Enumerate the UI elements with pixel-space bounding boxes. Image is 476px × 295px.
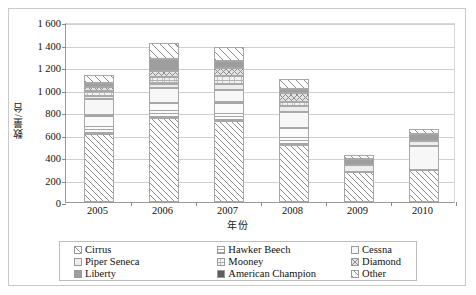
- chart-legend: CirrusHawker BeechCessnaPiper SenecaMoon…: [59, 241, 417, 281]
- y-axis-tick-label: 400: [45, 153, 61, 164]
- bar-group: [344, 22, 374, 202]
- stacked-bar[interactable]: [149, 22, 179, 202]
- stacked-bar[interactable]: [409, 22, 439, 202]
- legend-item-cessna[interactable]: Cessna: [351, 244, 416, 256]
- bar-segment[interactable]: [84, 87, 114, 90]
- bar-segment[interactable]: [214, 90, 244, 102]
- legend-row: Piper SenecaMooneyDiamond: [60, 256, 416, 268]
- bar-segment[interactable]: [344, 172, 374, 202]
- bar-segment[interactable]: [409, 170, 439, 202]
- bar-segment[interactable]: [279, 102, 309, 107]
- x-axis-tick-label: 2008: [282, 205, 303, 216]
- legend-swatch-icon: [217, 270, 225, 278]
- bar-segment[interactable]: [149, 84, 179, 89]
- x-axis-tick-label: 2005: [87, 205, 108, 216]
- y-axis-tick-label: 1 600: [37, 18, 61, 29]
- legend-label: Piper Seneca: [85, 256, 140, 268]
- legend-swatch-icon: [217, 246, 225, 254]
- legend-label: Cirrus: [85, 244, 111, 256]
- legend-label: Mooney: [228, 256, 263, 268]
- y-axis-tick-label: 800: [45, 108, 61, 119]
- bar-segment[interactable]: [279, 79, 309, 89]
- chart-frame: 数量/台 1 6001 4001 2001 0008006004002000 2…: [8, 8, 466, 286]
- bar-segment[interactable]: [409, 129, 439, 134]
- legend-swatch-icon: [74, 258, 82, 266]
- legend-item-other[interactable]: Other: [351, 268, 416, 280]
- legend-swatch-icon: [74, 270, 82, 278]
- bar-segment[interactable]: [214, 121, 244, 202]
- bar-group: [279, 22, 309, 202]
- x-axis-tick-label: 2009: [347, 205, 368, 216]
- plot-area: [65, 23, 455, 203]
- stacked-bar[interactable]: [84, 22, 114, 202]
- bar-segment[interactable]: [409, 134, 439, 141]
- bar-group: [84, 22, 114, 202]
- bar-segment[interactable]: [279, 112, 309, 128]
- legend-row: LibertyAmerican ChampionOther: [60, 268, 416, 280]
- bar-group: [409, 22, 439, 202]
- x-axis-tick-label: 2010: [412, 205, 433, 216]
- bar-segment[interactable]: [279, 128, 309, 144]
- legend-item-liberty[interactable]: Liberty: [60, 268, 217, 280]
- legend-label: Hawker Beech: [228, 244, 290, 256]
- plot-wrapper: 数量/台 1 6001 4001 2001 0008006004002000 2…: [9, 9, 467, 231]
- bar-segment[interactable]: [149, 103, 179, 118]
- legend-item-piper-seneca[interactable]: Piper Seneca: [60, 256, 217, 268]
- legend-item-hawker-beech[interactable]: Hawker Beech: [217, 244, 351, 256]
- bar-segment[interactable]: [409, 141, 439, 147]
- bar-segment[interactable]: [84, 83, 114, 88]
- bar-segment[interactable]: [214, 47, 244, 62]
- legend-swatch-icon: [351, 270, 359, 278]
- bar-segment[interactable]: [344, 159, 374, 165]
- legend-swatch-icon: [351, 246, 359, 254]
- legend-label: Cessna: [362, 244, 392, 256]
- legend-label: Other: [362, 268, 386, 280]
- bar-segment[interactable]: [214, 68, 244, 76]
- y-axis-tick-label: 1 200: [37, 63, 61, 74]
- bar-segment[interactable]: [279, 89, 309, 93]
- legend-item-american-champion[interactable]: American Champion: [217, 268, 351, 280]
- y-axis-tick-label: 600: [45, 130, 61, 141]
- bar-segment[interactable]: [84, 134, 114, 202]
- legend-item-diamond[interactable]: Diamond: [351, 256, 416, 268]
- y-axis-tick-labels: 1 6001 4001 2001 0008006004002000: [25, 9, 65, 231]
- bar-segment[interactable]: [344, 165, 374, 172]
- x-axis-tick-label: 2007: [217, 205, 238, 216]
- legend-item-mooney[interactable]: Mooney: [217, 256, 351, 268]
- legend-label: Diamond: [362, 256, 401, 268]
- bar-segment[interactable]: [279, 93, 309, 102]
- bar-segment[interactable]: [149, 77, 179, 84]
- legend-swatch-icon: [74, 246, 82, 254]
- bar-segment[interactable]: [84, 115, 114, 134]
- stacked-bar[interactable]: [214, 22, 244, 202]
- bar-segment[interactable]: [214, 84, 244, 90]
- bar-segment[interactable]: [149, 71, 179, 77]
- bar-segment[interactable]: [279, 106, 309, 112]
- bar-segment[interactable]: [84, 99, 114, 115]
- bar-segment[interactable]: [214, 61, 244, 67]
- legend-row: CirrusHawker BeechCessna: [60, 244, 416, 256]
- bar-segment[interactable]: [149, 118, 179, 202]
- stacked-bar[interactable]: [344, 22, 374, 202]
- bar-segment[interactable]: [409, 146, 439, 170]
- stacked-bar[interactable]: [279, 22, 309, 202]
- legend-swatch-icon: [351, 258, 359, 266]
- x-axis-tick-label: 2006: [152, 205, 173, 216]
- bar-segment[interactable]: [84, 75, 114, 83]
- y-axis-tick-label: 0: [56, 198, 61, 209]
- legend-label: American Champion: [228, 268, 316, 280]
- bar-segment[interactable]: [279, 145, 309, 202]
- bar-segment[interactable]: [214, 102, 244, 121]
- bar-group: [149, 22, 179, 202]
- y-axis-tick-label: 1 000: [37, 85, 61, 96]
- bar-segment[interactable]: [214, 76, 244, 84]
- bar-segment[interactable]: [84, 91, 114, 97]
- bar-segment[interactable]: [149, 43, 179, 59]
- bar-segment[interactable]: [149, 88, 179, 103]
- legend-swatch-icon: [217, 258, 225, 266]
- legend-label: Liberty: [85, 268, 116, 280]
- bar-segment[interactable]: [344, 155, 374, 159]
- legend-item-cirrus[interactable]: Cirrus: [60, 244, 217, 256]
- bar-segment[interactable]: [84, 96, 114, 98]
- bar-segment[interactable]: [149, 59, 179, 71]
